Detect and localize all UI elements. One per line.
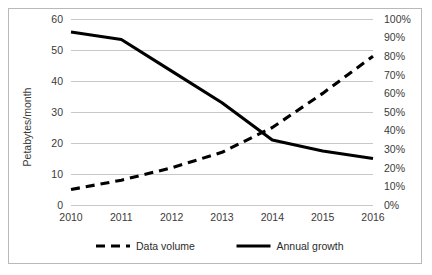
legend-label-annual-growth: Annual growth xyxy=(277,240,344,252)
right-axis-tick-label: 80% xyxy=(384,50,405,62)
line-chart-svg: 0102030405060 0%10%20%30%40%50%60%70%80%… xyxy=(9,9,423,265)
left-axis-tick-label: 60 xyxy=(51,13,63,25)
right-axis-tick-label: 20% xyxy=(384,162,405,174)
right-axis-tick-label: 60% xyxy=(384,87,405,99)
right-axis-tick-label: 100% xyxy=(384,13,411,25)
series-line-annual-growth xyxy=(71,32,373,158)
chart-container: 0102030405060 0%10%20%30%40%50%60%70%80%… xyxy=(8,8,422,264)
gridlines xyxy=(71,19,373,205)
x-axis-tick-label: 2010 xyxy=(59,211,83,223)
right-axis-tick-label: 0% xyxy=(384,199,399,211)
x-axis-tick-label: 2014 xyxy=(261,211,285,223)
right-axis-tick-label: 50% xyxy=(384,106,405,118)
left-axis-tick-labels: 0102030405060 xyxy=(51,13,63,211)
x-axis-tick-label: 2012 xyxy=(160,211,184,223)
left-axis-tick-label: 0 xyxy=(57,199,63,211)
right-axis-tick-label: 40% xyxy=(384,124,405,136)
left-axis-tick-label: 40 xyxy=(51,75,63,87)
left-axis-tick-label: 20 xyxy=(51,137,63,149)
x-axis-tick-label: 2011 xyxy=(110,211,133,223)
left-axis-tick-label: 30 xyxy=(51,106,63,118)
legend-label-data-volume: Data volume xyxy=(136,240,195,252)
chart-legend: Data volumeAnnual growth xyxy=(96,240,344,252)
x-axis-tick-label: 2016 xyxy=(361,211,385,223)
plot-area: 0102030405060 0%10%20%30%40%50%60%70%80%… xyxy=(9,9,421,263)
y-axis-title: Petabytes/month xyxy=(21,87,33,166)
x-axis-tick-label: 2015 xyxy=(311,211,335,223)
right-axis-tick-labels: 0%10%20%30%40%50%60%70%80%90%100% xyxy=(384,13,411,211)
x-axis-tick-label: 2013 xyxy=(210,211,234,223)
right-axis-tick-label: 90% xyxy=(384,31,405,43)
right-axis-tick-label: 10% xyxy=(384,180,405,192)
left-axis-tick-label: 10 xyxy=(51,168,63,180)
right-axis-tick-label: 30% xyxy=(384,143,405,155)
series-line-data-volume xyxy=(71,56,373,189)
x-axis-tick-labels: 2010201120122013201420152016 xyxy=(59,211,385,223)
right-axis-tick-label: 70% xyxy=(384,69,405,81)
series-lines xyxy=(71,32,373,189)
left-axis-tick-label: 50 xyxy=(51,44,63,56)
